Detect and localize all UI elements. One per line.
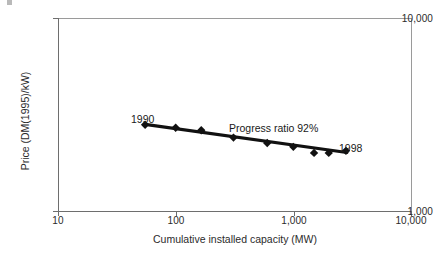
plot-frame-top <box>58 18 412 19</box>
plot-frame-right <box>411 18 412 212</box>
data-point-marker <box>310 149 318 157</box>
annotation-progress-ratio: Progress ratio 92% <box>229 122 318 134</box>
data-point-marker <box>229 133 237 141</box>
data-point-marker <box>171 124 179 132</box>
x-axis-title: Cumulative installed capacity (MW) <box>58 233 412 245</box>
data-point-marker <box>197 126 205 134</box>
x-tick-label-100: 100 <box>168 215 185 226</box>
annotation-start-year: 1990 <box>131 113 154 125</box>
x-tick-label-10000: 10,000 <box>395 215 426 226</box>
y-tick-label-10000: 10,000 <box>385 13 433 24</box>
data-point-marker <box>263 139 271 147</box>
chart-data-layer <box>0 0 433 257</box>
y-tick-mark-1000 <box>53 211 58 212</box>
annotation-end-year: 1998 <box>339 142 362 154</box>
chart-figure: 10 100 1,000 10,000 10,000 1,000 Cumulat… <box>0 0 433 257</box>
y-axis-title: Price (DM(1995)/kW) <box>19 36 31 206</box>
x-tick-label-10: 10 <box>52 215 63 226</box>
page-artifact-mark <box>7 0 12 5</box>
x-axis-line <box>58 211 412 212</box>
data-point-marker <box>289 143 297 151</box>
y-tick-label-1000: 1,000 <box>385 206 433 217</box>
y-tick-mark-10000 <box>53 18 58 19</box>
x-tick-label-1000: 1,000 <box>281 215 307 226</box>
data-point-marker <box>325 149 333 157</box>
y-axis-line <box>58 18 59 212</box>
